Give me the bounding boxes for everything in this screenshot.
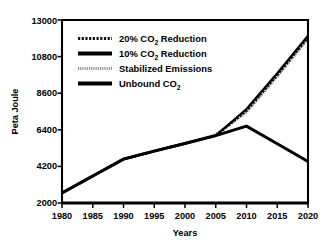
legend-label-10-percent: 10% CO2 Reduction [119,48,207,61]
x-axis-tick-labels: 1980 1985 1990 1995 2000 2005 2010 2015 … [52,211,318,221]
y-tick-label: 2000 [37,198,57,208]
y-tick-label: 4200 [37,161,57,171]
chart-container: 2000 4200 6400 8600 10800 13000 [0,0,332,245]
x-tick-label: 2010 [236,211,256,221]
x-tick-label: 2020 [298,211,318,221]
legend-label-stabilized: Stabilized Emissions [119,63,212,74]
x-tick-label: 1985 [83,211,103,221]
legend-label-20-percent: 20% CO2 Reduction [119,33,207,46]
x-tick-label: 2000 [175,211,195,221]
y-tick-label: 6400 [37,125,57,135]
y-tick-label: 13000 [31,16,57,26]
line-chart: 2000 4200 6400 8600 10800 13000 [0,0,332,245]
y-tick-label: 10800 [31,52,57,62]
x-tick-label: 2005 [206,211,226,221]
x-tick-label: 1980 [52,211,72,221]
legend-label-unbound: Unbound CO2 [119,78,181,91]
x-tick-label: 1990 [113,211,133,221]
x-tick-label: 1995 [144,211,164,221]
y-tick-label: 8600 [37,88,57,98]
x-tick-label: 2015 [267,211,287,221]
y-axis-title: Peta Joule [10,89,20,135]
x-axis-title: Years [173,228,198,238]
